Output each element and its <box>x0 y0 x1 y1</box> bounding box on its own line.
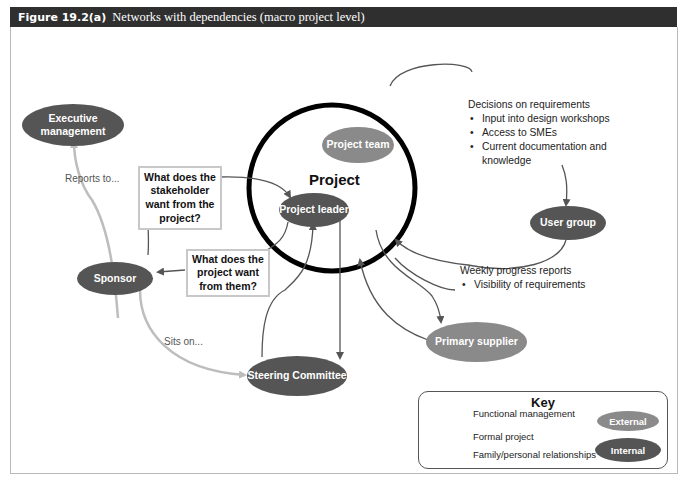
notes-user-group-item: Input into design workshops <box>482 112 668 126</box>
notes-supplier-item: Visibility of requirements <box>474 278 660 292</box>
legend-key: Key Functional management Formal project… <box>418 391 668 469</box>
legend-family-relationships: Family/personal relationships <box>473 449 596 460</box>
legend-external-node: External <box>597 411 659 431</box>
node-executive-management: Executive management <box>22 104 124 146</box>
node-project-team: Project team <box>322 127 394 163</box>
node-steering-committee: Steering Committee <box>247 356 347 396</box>
legend-internal-node: Internal <box>595 438 661 462</box>
node-sponsor: Sponsor <box>77 262 153 295</box>
label-reports-to: Reports to... <box>65 173 119 184</box>
question-stakeholder-wants: What does the stakeholder want from the … <box>138 166 222 230</box>
project-label: Project <box>309 171 360 188</box>
notes-supplier: Weekly progress reports Visibility of re… <box>460 264 660 292</box>
notes-user-group-item: Access to SMEs <box>482 126 668 140</box>
notes-supplier-heading: Weekly progress reports <box>460 264 660 278</box>
node-project-leader: Project leader <box>279 193 349 227</box>
notes-user-group: Decisions on requirements Input into des… <box>468 98 668 167</box>
notes-user-group-item: Current documentation and knowledge <box>482 140 632 168</box>
question-project-wants: What does the project want from them? <box>186 249 270 297</box>
notes-user-group-heading: Decisions on requirements <box>468 98 668 112</box>
node-user-group: User group <box>530 206 606 240</box>
legend-functional-management: Functional management <box>473 408 575 419</box>
legend-formal-project: Formal project <box>473 431 534 442</box>
node-primary-supplier: Primary supplier <box>426 322 527 362</box>
label-sits-on: Sits on... <box>164 336 203 347</box>
